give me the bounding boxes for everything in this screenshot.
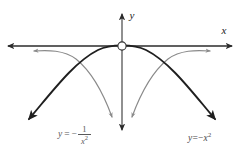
curve-inverse-square-left-tail: [34, 51, 112, 117]
curve-inverse-square-right-tail: [132, 51, 210, 117]
label-right-exponent: 2: [208, 131, 211, 138]
label-negative-x-squared-equation: y=−x2: [188, 131, 211, 143]
label-left-denominator-exponent: 2: [85, 134, 88, 141]
label-left-fraction: 1 x2: [78, 125, 91, 145]
label-left-lhs: y: [58, 130, 62, 140]
label-left-sign: −: [72, 130, 77, 140]
label-left-equals: =: [64, 130, 69, 140]
y-axis-label: y: [129, 9, 135, 21]
axes-group: x y: [8, 9, 232, 130]
x-axis-label: x: [221, 24, 227, 36]
math-figure: x y y = − 1 x2 y=−x2: [0, 0, 245, 156]
label-inverse-square-equation: y = − 1 x2: [58, 125, 91, 145]
origin-open-circle: [118, 42, 126, 50]
label-left-numerator: 1: [80, 125, 88, 134]
label-left-denominator: x2: [79, 135, 90, 145]
